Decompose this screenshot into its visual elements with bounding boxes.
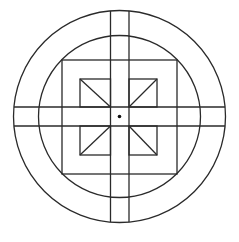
center-dot <box>118 115 122 119</box>
diagonal-top-right <box>129 79 157 107</box>
geometric-figure <box>0 0 239 242</box>
diagram-canvas <box>0 0 239 242</box>
diagonal-bottom-right <box>129 126 157 155</box>
diagonal-bottom-left <box>80 126 111 155</box>
diagonal-top-left <box>80 79 111 107</box>
